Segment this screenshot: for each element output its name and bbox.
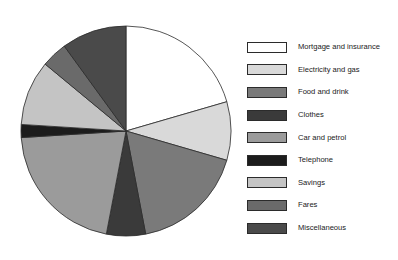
legend-swatch-mortgage-and-insurance <box>247 42 287 53</box>
legend-swatch-clothes <box>247 110 287 121</box>
legend-item-telephone[interactable]: Telephone <box>247 149 395 172</box>
pie-chart-plot-area: Mortgage and insuranceElectricity and ga… <box>18 21 234 241</box>
legend-swatch-electricity-and-gas <box>247 64 287 75</box>
legend-label-clothes: Clothes <box>298 111 324 119</box>
legend-item-miscellaneous[interactable]: Miscellaneous <box>247 217 395 240</box>
legend-label-food-and-drink: Food and drink <box>298 88 349 96</box>
legend-label-electricity-and-gas: Electricity and gas <box>298 66 360 74</box>
legend-item-clothes[interactable]: Clothes <box>247 104 395 127</box>
legend-label-telephone: Telephone <box>298 156 333 164</box>
pie-chart-figure: Mortgage and insuranceElectricity and ga… <box>0 0 398 260</box>
legend-swatch-miscellaneous <box>247 223 287 234</box>
pie-slice-group: Mortgage and insuranceElectricity and ga… <box>21 26 231 236</box>
legend-item-savings[interactable]: Savings <box>247 172 395 195</box>
legend-label-savings: Savings <box>298 179 325 187</box>
chart-legend: Mortgage and insurance Electricity and g… <box>247 36 395 239</box>
legend-item-mortgage-and-insurance[interactable]: Mortgage and insurance <box>247 36 395 59</box>
legend-swatch-telephone <box>247 155 287 166</box>
legend-swatch-food-and-drink <box>247 87 287 98</box>
legend-item-car-and-petrol[interactable]: Car and petrol <box>247 126 395 149</box>
legend-item-food-and-drink[interactable]: Food and drink <box>247 81 395 104</box>
legend-swatch-car-and-petrol <box>247 132 287 143</box>
legend-swatch-fares <box>247 200 287 211</box>
legend-label-mortgage-and-insurance: Mortgage and insurance <box>298 43 380 51</box>
legend-item-fares[interactable]: Fares <box>247 194 395 217</box>
legend-item-electricity-and-gas[interactable]: Electricity and gas <box>247 59 395 82</box>
legend-label-car-and-petrol: Car and petrol <box>298 134 346 142</box>
legend-label-miscellaneous: Miscellaneous <box>298 224 346 232</box>
pie-chart-svg: Mortgage and insuranceElectricity and ga… <box>18 21 234 241</box>
legend-label-fares: Fares <box>298 201 317 209</box>
legend-swatch-savings <box>247 177 287 188</box>
